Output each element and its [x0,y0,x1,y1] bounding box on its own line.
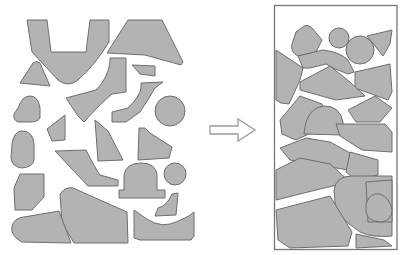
part-chamfered-square [14,174,44,210]
nested-part-hexagon [348,96,392,122]
part-large-sloped [60,188,128,243]
part-notched-trapezoid [138,128,172,160]
part-rounded-blob [14,96,40,122]
nested-part-trapezoid-large [336,124,392,152]
part-small-quad [47,115,65,141]
nesting-diagram [0,0,402,255]
diagram-canvas [0,0,402,255]
nested-part-circle-large [346,36,374,64]
input-parts-group [11,20,194,243]
nested-part-circle-small [329,28,349,48]
part-oval [11,131,34,168]
nested-sheet-group [275,6,398,250]
part-small-wedge [132,65,155,76]
part-circle-large [155,96,185,126]
transform-arrow [210,119,255,141]
right-arrow-icon [210,119,255,141]
part-circle-small [164,163,186,185]
part-tall-quad [95,120,123,161]
part-arch [119,163,165,198]
